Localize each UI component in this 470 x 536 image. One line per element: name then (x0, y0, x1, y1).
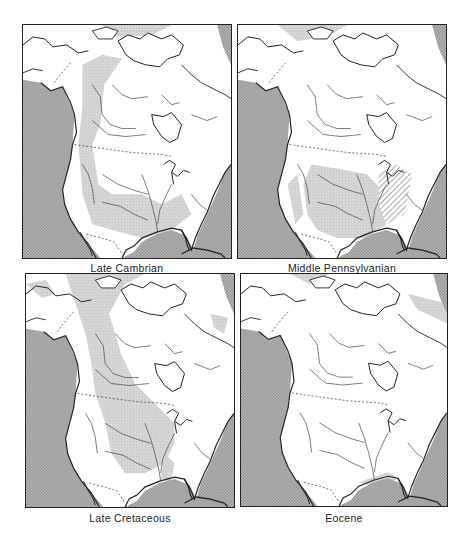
north-america-map (23, 25, 231, 258)
caption-late-cretaceous: Late Cretaceous (25, 512, 235, 524)
map-panel-late-cambrian (22, 24, 232, 259)
north-america-map (26, 274, 234, 507)
map-panel-late-cretaceous (25, 273, 235, 508)
caption-eocene: Eocene (240, 512, 448, 524)
north-america-map (241, 274, 447, 506)
map-panel-middle-pennsylvanian (237, 24, 447, 259)
map-panel-eocene (240, 273, 448, 507)
north-america-map (238, 25, 446, 258)
